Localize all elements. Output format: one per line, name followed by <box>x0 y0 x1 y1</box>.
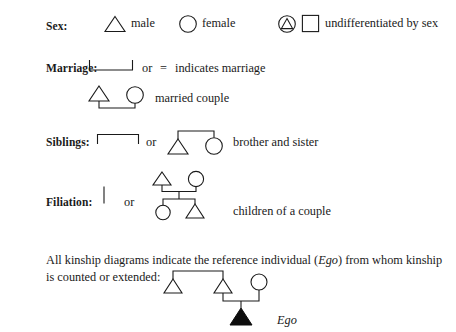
marriage-indicates-text: indicates marriage <box>175 58 265 76</box>
undifferentiated-square-symbol <box>301 14 320 33</box>
female-text: female <box>202 13 235 31</box>
siblings-label-text: Siblings: <box>46 136 90 148</box>
male-text: male <box>131 13 155 31</box>
ego-marker-text: Ego <box>277 310 297 328</box>
ego-note-line1-before: All kinship diagrams indicate the refere… <box>46 253 318 267</box>
filiation-descent-line-symbol <box>101 186 107 204</box>
filiation-or-text: or <box>124 192 134 210</box>
children-of-a-couple-symbol <box>147 170 227 220</box>
row-filiation-label: Filiation: <box>46 192 92 210</box>
marriage-or-text: or <box>142 58 152 76</box>
female-symbol <box>178 14 198 34</box>
kinship-legend-figure: Sex: male female undifferentiated by sex… <box>0 0 456 332</box>
ego-diagram-symbol <box>155 268 275 328</box>
ego-note-italic-ego: Ego <box>318 253 338 267</box>
marriage-bracket-symbol <box>88 59 134 72</box>
married-couple-text: married couple <box>155 88 229 106</box>
sibling-bracket-symbol <box>96 133 140 146</box>
male-symbol <box>103 15 127 33</box>
undifferentiated-circle-triangle-symbol <box>277 14 297 34</box>
row-sex-label: Sex: <box>46 16 67 34</box>
ego-note-line2: is counted or extended: <box>46 270 160 284</box>
siblings-or-text: or <box>146 132 156 150</box>
undifferentiated-text: undifferentiated by sex <box>325 13 438 31</box>
marriage-equals-text: = <box>160 58 167 76</box>
married-couple-symbol <box>86 84 148 112</box>
brother-sister-text: brother and sister <box>233 132 318 150</box>
children-of-a-couple-text: children of a couple <box>233 201 331 219</box>
sex-label-text: Sex: <box>46 20 67 32</box>
brother-sister-symbol <box>165 128 227 156</box>
ego-note-line1-after: ) from whom kinship <box>338 253 442 267</box>
row-siblings-label: Siblings: <box>46 132 90 150</box>
filiation-label-text: Filiation: <box>46 196 92 208</box>
